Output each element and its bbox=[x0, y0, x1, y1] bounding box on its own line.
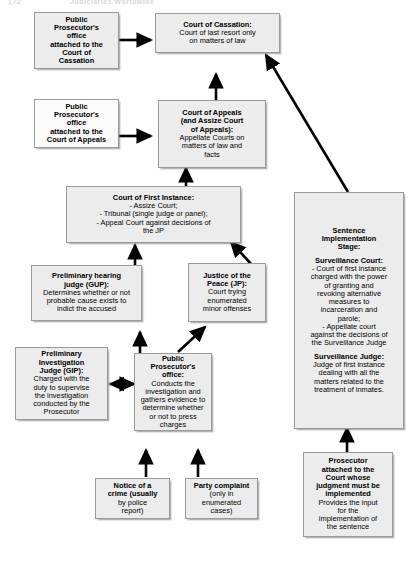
box-line: Prosecutor bbox=[33, 408, 89, 416]
box-notice-of-a-crime[interactable]: Notice of acrime (usuallyby policereport… bbox=[95, 478, 170, 519]
box-line: cases) bbox=[194, 507, 249, 515]
arrow-prosecutor-office-to-jp bbox=[178, 327, 205, 352]
box-line: on matters of law bbox=[179, 37, 255, 45]
box-line: Stage: bbox=[310, 243, 387, 251]
box-line: the JP bbox=[96, 227, 210, 235]
box-public-prosecutor-cassation[interactable]: PublicProsecutor'sofficeattached to theC… bbox=[34, 12, 119, 69]
box-court-of-first-instance[interactable]: Court of First Instance:- Assize Court;-… bbox=[66, 186, 241, 243]
arrow-sentence-stage-to-cassation bbox=[266, 55, 348, 192]
box-text: PreliminaryInvestigationJudge (GIP):Char… bbox=[33, 350, 89, 416]
box-court-of-cassation[interactable]: Court of Cassation:Court of last resort … bbox=[155, 13, 280, 53]
box-line: Court of Appeals bbox=[47, 136, 106, 144]
box-text: Justice of thePeace (JP):Court tryingenu… bbox=[203, 272, 251, 313]
box-text: Prosecutorattached to theCourt whosejudg… bbox=[316, 457, 380, 532]
box-text: Party complaint(only inenumeratedcases) bbox=[194, 482, 249, 515]
box-line: the sentence bbox=[316, 523, 380, 531]
box-text: PublicProsecutor'sofficeattached to theC… bbox=[47, 103, 106, 144]
box-line: treatment of inmates. bbox=[310, 386, 387, 394]
box-party-complaint[interactable]: Party complaint(only inenumeratedcases) bbox=[185, 478, 258, 519]
box-text: Preliminary hearingjudge (GUP):Determine… bbox=[43, 272, 130, 313]
box-public-prosecutor-appeals[interactable]: PublicProsecutor'sofficeattached to theC… bbox=[34, 99, 119, 148]
box-public-prosecutors-office[interactable]: PublicProsecutor'soffice:Conducts theinv… bbox=[134, 353, 212, 431]
box-line: charges bbox=[141, 421, 206, 429]
box-text: SentenceImplementationStage:Surveillance… bbox=[310, 227, 387, 394]
box-text: PublicProsecutor'soffice:Conducts theinv… bbox=[141, 355, 206, 430]
box-line: minor offenses bbox=[203, 305, 251, 313]
box-text: Notice of acrime (usuallyby policereport… bbox=[108, 482, 158, 515]
box-line: report) bbox=[108, 507, 158, 515]
box-sentence-implementation-stage[interactable]: SentenceImplementationStage:Surveillance… bbox=[294, 192, 404, 429]
diagram-canvas: 172 Judiciaries Worldwide bbox=[0, 0, 417, 563]
box-line: indict the accused bbox=[43, 305, 130, 313]
box-line: Cassation bbox=[50, 57, 103, 65]
box-preliminary-hearing-judge-gup[interactable]: Preliminary hearingjudge (GUP):Determine… bbox=[31, 265, 142, 321]
box-text: Court of First Instance:- Assize Court;-… bbox=[96, 194, 210, 235]
box-court-of-appeals[interactable]: Court of Appeals(and Assize Courtof Appe… bbox=[158, 100, 266, 168]
box-text: Court of Appeals(and Assize Courtof Appe… bbox=[180, 109, 245, 159]
box-text: PublicProsecutor'sofficeattached to theC… bbox=[50, 16, 103, 66]
box-preliminary-investigation-judge-gip[interactable]: PreliminaryInvestigationJudge (GIP):Char… bbox=[15, 347, 108, 420]
box-line: facts bbox=[180, 151, 245, 159]
box-line: the Surveillance Judge bbox=[310, 339, 387, 347]
box-text: Court of Cassation:Court of last resort … bbox=[179, 21, 255, 46]
box-justice-of-the-peace[interactable]: Justice of thePeace (JP):Court tryingenu… bbox=[188, 263, 266, 322]
box-prosecutor-attached-to-court[interactable]: Prosecutorattached to theCourt whosejudg… bbox=[303, 452, 393, 537]
arrow-jp-to-first-instance bbox=[231, 242, 252, 265]
